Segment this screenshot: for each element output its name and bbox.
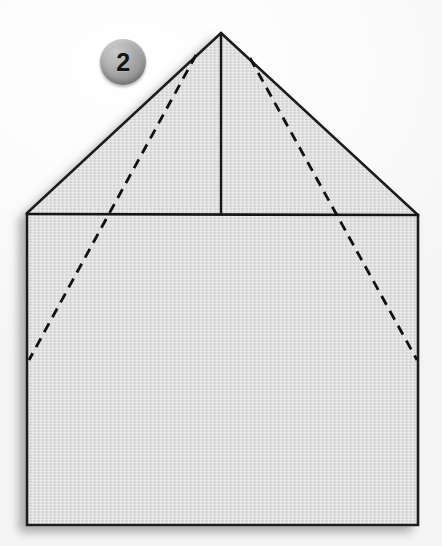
origami-diagram — [0, 0, 442, 546]
figure-stage: 2 Paper folding step 2 — [0, 0, 442, 546]
horizontal-fold-line — [27, 214, 418, 215]
step-number-label: 2 — [116, 50, 129, 75]
paper-outline — [27, 33, 418, 525]
paper-shape — [27, 33, 418, 525]
step-number-badge: 2 — [100, 39, 146, 85]
